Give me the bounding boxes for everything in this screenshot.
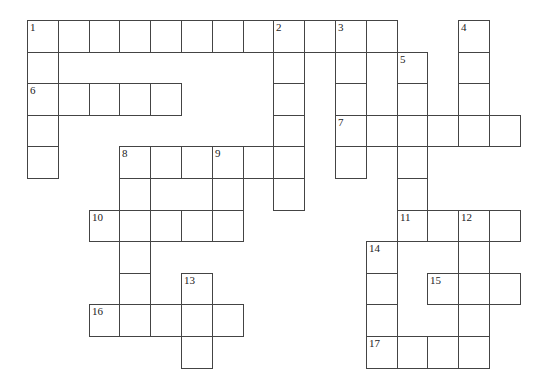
crossword-cell[interactable]: 17 bbox=[366, 336, 398, 369]
crossword-cell[interactable]: 15 bbox=[427, 273, 459, 305]
crossword-cell[interactable]: 14 bbox=[366, 241, 398, 274]
clue-number: 11 bbox=[400, 211, 411, 223]
crossword-cell[interactable] bbox=[212, 178, 244, 211]
crossword-cell[interactable]: 12 bbox=[458, 210, 490, 242]
crossword-cell[interactable] bbox=[335, 52, 367, 84]
crossword-cell[interactable] bbox=[212, 210, 244, 242]
crossword-cell[interactable] bbox=[181, 304, 213, 337]
crossword-cell[interactable] bbox=[212, 20, 244, 53]
crossword-cell[interactable] bbox=[458, 83, 490, 116]
crossword-cell[interactable] bbox=[27, 146, 59, 179]
crossword-cell[interactable] bbox=[458, 241, 490, 274]
crossword-cell[interactable] bbox=[458, 336, 490, 369]
crossword-cell[interactable] bbox=[489, 273, 521, 305]
crossword-cell[interactable] bbox=[366, 20, 398, 53]
crossword-cell[interactable] bbox=[119, 83, 151, 116]
crossword-cell[interactable] bbox=[58, 20, 90, 53]
clue-number: 7 bbox=[338, 116, 344, 128]
clue-number: 10 bbox=[92, 211, 103, 223]
crossword-cell[interactable]: 8 bbox=[119, 146, 151, 179]
crossword-cell[interactable] bbox=[150, 304, 182, 337]
clue-number: 15 bbox=[430, 274, 441, 286]
clue-number: 9 bbox=[215, 147, 221, 159]
crossword-cell[interactable] bbox=[489, 210, 521, 242]
crossword-grid: 1234567891011121413151617 bbox=[0, 0, 554, 392]
crossword-cell[interactable] bbox=[89, 20, 120, 53]
crossword-cell[interactable] bbox=[150, 146, 182, 179]
crossword-cell[interactable]: 13 bbox=[181, 273, 213, 305]
clue-number: 8 bbox=[122, 147, 128, 159]
clue-number: 12 bbox=[461, 211, 472, 223]
clue-number: 2 bbox=[276, 21, 282, 33]
crossword-cell[interactable] bbox=[273, 83, 305, 116]
crossword-cell[interactable] bbox=[119, 304, 151, 337]
crossword-cell[interactable]: 6 bbox=[27, 83, 59, 116]
crossword-cell[interactable] bbox=[397, 178, 428, 211]
crossword-cell[interactable] bbox=[273, 115, 305, 147]
crossword-cell[interactable]: 10 bbox=[89, 210, 120, 242]
crossword-cell[interactable]: 9 bbox=[212, 146, 244, 179]
crossword-cell[interactable] bbox=[181, 146, 213, 179]
crossword-cell[interactable]: 16 bbox=[89, 304, 120, 337]
crossword-cell[interactable] bbox=[181, 210, 213, 242]
clue-number: 13 bbox=[184, 274, 195, 286]
crossword-cell[interactable] bbox=[58, 83, 90, 116]
crossword-cell[interactable] bbox=[212, 304, 244, 337]
crossword-cell[interactable] bbox=[335, 83, 367, 116]
crossword-cell[interactable] bbox=[119, 20, 151, 53]
crossword-cell[interactable] bbox=[397, 146, 428, 179]
crossword-cell[interactable] bbox=[458, 273, 490, 305]
crossword-cell[interactable] bbox=[366, 304, 398, 337]
crossword-cell[interactable]: 5 bbox=[397, 52, 428, 84]
clue-number: 1 bbox=[30, 21, 36, 33]
crossword-cell[interactable] bbox=[427, 336, 459, 369]
clue-number: 5 bbox=[400, 53, 406, 65]
crossword-cell[interactable] bbox=[458, 52, 490, 84]
clue-number: 3 bbox=[338, 21, 344, 33]
crossword-cell[interactable] bbox=[458, 304, 490, 337]
crossword-cell[interactable] bbox=[427, 210, 459, 242]
crossword-cell[interactable] bbox=[119, 178, 151, 211]
crossword-cell[interactable] bbox=[273, 52, 305, 84]
clue-number: 4 bbox=[461, 21, 467, 33]
crossword-cell[interactable] bbox=[150, 20, 182, 53]
crossword-cell[interactable] bbox=[27, 52, 59, 84]
crossword-cell[interactable] bbox=[181, 20, 213, 53]
crossword-cell[interactable] bbox=[366, 273, 398, 305]
crossword-cell[interactable] bbox=[119, 210, 151, 242]
clue-number: 17 bbox=[369, 337, 380, 349]
crossword-cell[interactable] bbox=[489, 115, 521, 147]
crossword-cell[interactable] bbox=[273, 178, 305, 211]
crossword-cell[interactable] bbox=[335, 146, 367, 179]
crossword-cell[interactable] bbox=[119, 273, 151, 305]
crossword-cell[interactable] bbox=[119, 241, 151, 274]
crossword-cell[interactable] bbox=[427, 115, 459, 147]
crossword-cell[interactable] bbox=[458, 115, 490, 147]
clue-number: 6 bbox=[30, 84, 36, 96]
crossword-cell[interactable] bbox=[397, 115, 428, 147]
crossword-cell[interactable]: 2 bbox=[273, 20, 305, 53]
crossword-cell[interactable] bbox=[273, 146, 305, 179]
crossword-cell[interactable] bbox=[150, 210, 182, 242]
clue-number: 14 bbox=[369, 242, 380, 254]
crossword-cell[interactable] bbox=[150, 83, 182, 116]
crossword-cell[interactable]: 4 bbox=[458, 20, 490, 53]
crossword-cell[interactable] bbox=[397, 336, 428, 369]
crossword-cell[interactable] bbox=[243, 146, 274, 179]
crossword-cell[interactable]: 7 bbox=[335, 115, 367, 147]
crossword-cell[interactable]: 3 bbox=[335, 20, 367, 53]
crossword-cell[interactable] bbox=[243, 20, 274, 53]
crossword-cell[interactable] bbox=[181, 336, 213, 369]
crossword-cell[interactable]: 11 bbox=[397, 210, 428, 242]
crossword-cell[interactable]: 1 bbox=[27, 20, 59, 53]
crossword-cell[interactable] bbox=[366, 115, 398, 147]
crossword-cell[interactable] bbox=[304, 20, 336, 53]
crossword-cell[interactable] bbox=[397, 83, 428, 116]
crossword-cell[interactable] bbox=[27, 115, 59, 147]
clue-number: 16 bbox=[92, 305, 103, 317]
crossword-cell[interactable] bbox=[89, 83, 120, 116]
